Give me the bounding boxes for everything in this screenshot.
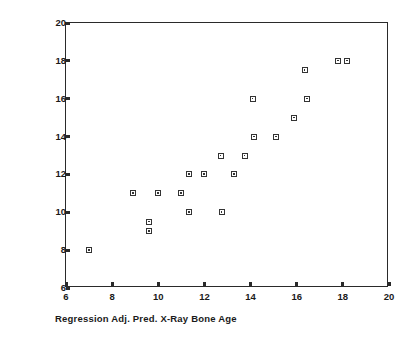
- y-axis-tick-marks: [66, 23, 72, 288]
- x-tick-label: 16: [285, 292, 309, 302]
- data-point: [218, 153, 224, 159]
- x-tick-mark: [65, 282, 68, 286]
- data-point: [201, 171, 207, 177]
- y-tick-mark: [66, 287, 70, 290]
- y-tick-label: 8: [44, 245, 66, 255]
- data-point: [344, 58, 350, 64]
- data-point: [242, 153, 248, 159]
- x-axis-ticks: 68101214161820: [66, 285, 389, 286]
- y-axis-tick-labels: 68101214161820: [40, 23, 66, 288]
- data-point: [186, 209, 192, 215]
- x-tick-label: 14: [239, 292, 263, 302]
- scatter-plot-figure: Observed X-Ray Bone Age 68101214161820 6…: [0, 0, 411, 350]
- y-tick-label: 10: [44, 207, 66, 217]
- data-point: [178, 190, 184, 196]
- y-tick-label: 16: [44, 94, 66, 104]
- x-axis-label: Regression Adj. Pred. X-Ray Bone Age: [55, 313, 355, 324]
- data-point: [304, 96, 310, 102]
- x-tick-mark: [111, 282, 114, 286]
- x-tick-label: 20: [377, 292, 401, 302]
- x-tick-label: 6: [54, 292, 78, 302]
- data-point: [291, 115, 297, 121]
- x-tick-mark: [295, 282, 298, 286]
- x-tick-label: 12: [192, 292, 216, 302]
- data-point: [86, 247, 92, 253]
- y-tick-mark: [66, 173, 70, 176]
- data-point: [130, 190, 136, 196]
- y-tick-label: 20: [44, 18, 66, 28]
- x-tick-label: 18: [331, 292, 355, 302]
- data-point: [146, 228, 152, 234]
- y-tick-mark: [66, 211, 70, 214]
- x-tick-label: 10: [146, 292, 170, 302]
- y-tick-label: 18: [44, 56, 66, 66]
- data-point: [335, 58, 341, 64]
- x-tick-mark: [157, 282, 160, 286]
- x-tick-mark: [341, 282, 344, 286]
- y-tick-mark: [66, 249, 70, 252]
- data-point: [155, 190, 161, 196]
- data-point: [219, 209, 225, 215]
- y-tick-label: 14: [44, 132, 66, 142]
- plot-area: 68101214161820 68101214161820: [65, 22, 388, 287]
- y-tick-mark: [66, 97, 70, 100]
- x-tick-label: 8: [100, 292, 124, 302]
- data-point: [251, 134, 257, 140]
- data-point: [146, 219, 152, 225]
- x-tick-mark: [203, 282, 206, 286]
- x-tick-mark: [388, 282, 391, 286]
- data-point: [302, 67, 308, 73]
- data-point: [273, 134, 279, 140]
- y-tick-mark: [66, 22, 70, 25]
- y-tick-mark: [66, 135, 70, 138]
- data-point: [231, 171, 237, 177]
- x-tick-mark: [249, 282, 252, 286]
- data-point: [250, 96, 256, 102]
- y-tick-mark: [66, 59, 70, 62]
- y-tick-label: 12: [44, 169, 66, 179]
- data-point: [186, 171, 192, 177]
